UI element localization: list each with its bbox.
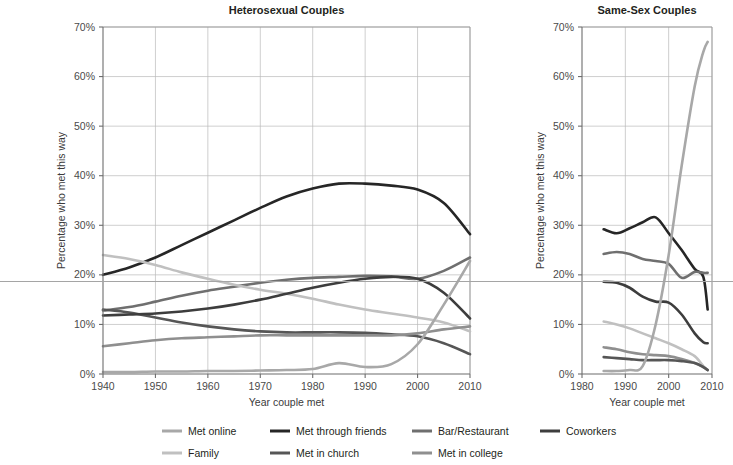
- y-tick-label: 30%: [553, 219, 574, 231]
- x-axis-title: Year couple met: [609, 396, 685, 408]
- legend-item-coworkers[interactable]: Coworkers: [540, 425, 616, 437]
- figure-container: Heterosexual Couples0%10%20%30%40%50%60%…: [0, 0, 733, 465]
- y-axis-title: Percentage who met this way: [534, 131, 546, 269]
- legend-label: Bar/Restaurant: [438, 425, 509, 437]
- y-tick-label: 50%: [74, 120, 95, 132]
- series-line-met-online: [604, 42, 708, 371]
- y-tick-label: 50%: [553, 120, 574, 132]
- chart-svg: Heterosexual Couples0%10%20%30%40%50%60%…: [0, 0, 733, 465]
- x-tick-label: 1960: [196, 380, 220, 392]
- y-tick-label: 40%: [74, 169, 95, 181]
- legend-label: Met through friends: [296, 425, 386, 437]
- legend-item-family[interactable]: Family: [162, 447, 220, 459]
- legend-label: Met in church: [296, 447, 359, 459]
- panel-heterosexual: Heterosexual Couples0%10%20%30%40%50%60%…: [55, 4, 482, 408]
- series-line-met-through-friends: [604, 217, 708, 310]
- legend-item-met-in-college[interactable]: Met in college: [412, 447, 503, 459]
- y-tick-label: 60%: [553, 70, 574, 82]
- x-tick-label: 2000: [657, 380, 681, 392]
- x-tick-label: 2000: [406, 380, 430, 392]
- y-tick-label: 70%: [74, 21, 95, 33]
- x-tick-label: 1980: [570, 380, 594, 392]
- legend-label: Coworkers: [566, 425, 616, 437]
- x-tick-label: 1990: [353, 380, 377, 392]
- legend-item-bar-restaurant[interactable]: Bar/Restaurant: [412, 425, 509, 437]
- x-tick-label: 2010: [700, 380, 724, 392]
- y-axis-title: Percentage who met this way: [55, 131, 67, 269]
- y-tick-label: 30%: [74, 219, 95, 231]
- y-tick-label: 10%: [74, 318, 95, 330]
- panel-title-heterosexual: Heterosexual Couples: [229, 4, 345, 16]
- legend-label: Met online: [188, 425, 237, 437]
- legend-item-met-through-friends[interactable]: Met through friends: [270, 425, 386, 437]
- y-tick-label: 70%: [553, 21, 574, 33]
- x-tick-label: 1940: [91, 380, 115, 392]
- series-line-met-in-church: [604, 357, 708, 370]
- panel-same-sex: Same-Sex Couples0%10%20%30%40%50%60%70%1…: [534, 4, 724, 408]
- x-tick-label: 1980: [301, 380, 325, 392]
- legend-item-met-online[interactable]: Met online: [162, 425, 237, 437]
- y-tick-label: 0%: [80, 368, 95, 380]
- y-tick-label: 0%: [559, 368, 574, 380]
- series-line-coworkers: [103, 277, 470, 319]
- legend-label: Family: [188, 447, 220, 459]
- series-line-met-through-friends: [103, 183, 470, 275]
- y-tick-label: 60%: [74, 70, 95, 82]
- y-tick-label: 20%: [74, 268, 95, 280]
- x-tick-label: 2010: [458, 380, 482, 392]
- x-tick-label: 1990: [614, 380, 638, 392]
- panel-title-same-sex: Same-Sex Couples: [597, 4, 696, 16]
- legend: Met onlineMet through friendsBar/Restaur…: [162, 425, 616, 459]
- legend-item-met-in-church[interactable]: Met in church: [270, 447, 359, 459]
- y-tick-label: 20%: [553, 268, 574, 280]
- legend-label: Met in college: [438, 447, 503, 459]
- y-tick-label: 40%: [553, 169, 574, 181]
- series-line-coworkers: [604, 282, 708, 344]
- y-tick-label: 10%: [553, 318, 574, 330]
- x-tick-label: 1950: [144, 380, 168, 392]
- x-tick-label: 1970: [249, 380, 273, 392]
- x-axis-title: Year couple met: [249, 396, 325, 408]
